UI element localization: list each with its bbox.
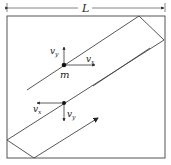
dimension-label: L — [81, 2, 89, 15]
vy-label-upper: vy — [50, 46, 59, 58]
mass-label: m — [60, 69, 69, 80]
lower-point — [62, 101, 66, 105]
vx-label-lower: vx — [33, 104, 42, 115]
diagram-canvas: L vy vx m vx vy — [0, 0, 171, 165]
diagonal-strip — [7, 16, 164, 158]
vy-label-lower: vy — [67, 109, 76, 121]
vx-label-upper: vx — [86, 54, 95, 65]
